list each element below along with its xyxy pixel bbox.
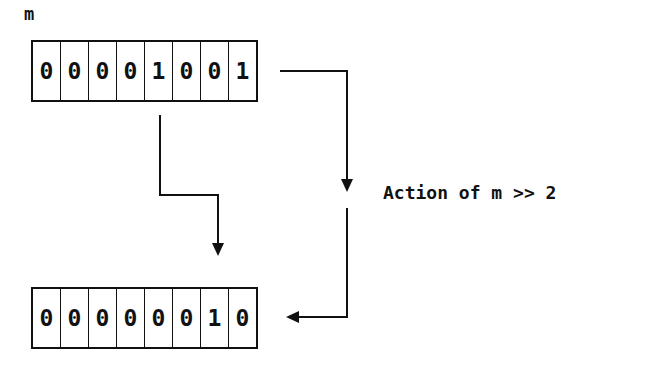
- arrowhead-left-icon: [286, 311, 299, 323]
- operation-flow-arrow-top: [280, 71, 347, 180]
- operation-label: Action of m >> 2: [383, 182, 556, 203]
- shift-path-arrow: [160, 115, 218, 244]
- operation-flow-arrow-bottom: [298, 208, 347, 317]
- arrowhead-down-icon: [212, 243, 224, 256]
- arrowhead-down-icon: [341, 179, 353, 192]
